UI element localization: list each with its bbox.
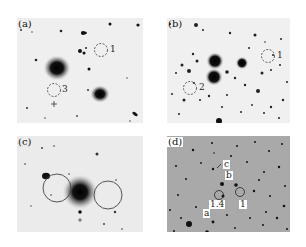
label-1: 1 [239,200,247,209]
panel-c: (c) [17,136,143,232]
aperture-1-label: 1 [277,51,283,60]
label-c: c [223,160,230,169]
panel-b: (b) 1 2 [167,18,290,123]
star-field-c [17,136,143,232]
label-a: a [203,209,210,218]
panel-d: (d) c b 1.4 1 a [167,136,290,232]
label-b: b [225,171,233,180]
panel-c-label: (c) [18,137,31,147]
panel-d-label: (d) [167,137,183,147]
panel-b-label: (b) [168,19,182,29]
panel-a-label: (a) [18,19,32,29]
aperture-3-label: 3 [62,85,68,94]
star-field-b [167,18,290,123]
aperture-1-label: 1 [110,45,116,54]
star-field-d [167,136,290,232]
label-1-4: 1.4 [209,200,225,209]
star-field-a [17,18,143,123]
aperture-2-label: 2 [199,83,205,92]
panel-a: (a) 1 3 [17,18,143,123]
